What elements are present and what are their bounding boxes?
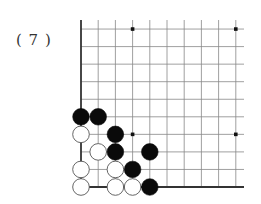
black-stone: [142, 144, 159, 161]
grid-lines: [81, 20, 244, 187]
black-stone: [107, 126, 124, 143]
star-point: [131, 133, 135, 137]
black-stone: [90, 109, 107, 126]
white-stone: [73, 179, 90, 196]
star-point: [234, 27, 238, 31]
white-stone: [90, 144, 107, 161]
black-stone: [124, 161, 141, 178]
white-stone: [73, 126, 90, 143]
star-point: [131, 27, 135, 31]
white-stone: [73, 161, 90, 178]
black-stone: [73, 109, 90, 126]
star-point: [234, 133, 238, 137]
go-board: [0, 0, 261, 204]
board-edges: [80, 20, 244, 188]
white-stone: [124, 179, 141, 196]
white-stone: [107, 179, 124, 196]
white-stone: [107, 161, 124, 178]
black-stone: [107, 144, 124, 161]
black-stone: [142, 179, 159, 196]
